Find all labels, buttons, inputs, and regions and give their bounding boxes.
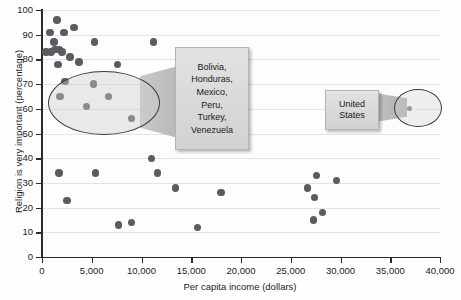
gridline [42,10,440,11]
us-label-line-2: States [339,110,365,122]
data-point [60,29,67,36]
gridline [42,232,440,233]
y-axis-tick-mark [36,59,42,60]
data-point [58,48,65,55]
x-axis-tick-label: 40,000 [410,265,461,276]
y-axis-tick-mark [36,109,42,110]
scatter-chart-figure: 0102030405060708090100 05,00010,00015,00… [0,0,461,300]
data-point [54,61,61,68]
data-point [53,16,60,23]
data-point [70,24,77,31]
united-states-callout-text: United States [339,99,365,122]
cluster-highlight-ellipse [48,71,160,135]
data-point [55,169,62,176]
united-states-callout-box: United States [325,90,379,130]
callout-country-3: Mexico, [191,86,233,99]
x-axis-tick-mark [42,257,43,263]
x-axis-tick-mark [92,257,93,263]
data-point [172,184,179,191]
x-axis-tick-mark [440,257,441,263]
x-axis-tick-mark [341,257,342,263]
data-point [148,155,155,162]
data-point [304,184,311,191]
data-point [154,169,161,176]
y-axis-tick-mark [36,84,42,85]
gridline [42,35,440,36]
y-axis-title: Religion is very important (percentage) [13,7,24,257]
data-point [310,216,317,223]
callout-country-6: Venezuela [191,124,233,137]
gridline [42,208,440,209]
cluster-callout-text: Bolivia, Honduras, Mexico, Peru, Turkey,… [191,61,233,137]
data-point [115,221,122,228]
y-axis-tick-mark [36,158,42,159]
x-axis-tick-mark [191,257,192,263]
x-axis-tick-mark [390,257,391,263]
y-axis-tick-mark [36,183,42,184]
x-axis-tick-mark [241,257,242,263]
callout-country-4: Peru, [191,99,233,112]
gridline [42,183,440,184]
data-point [150,38,157,45]
data-point [75,58,82,65]
data-point [66,53,73,60]
y-axis-tick-mark [36,208,42,209]
data-point [63,197,70,204]
y-axis-tick-mark [36,35,42,36]
y-axis-tick-mark [36,134,42,135]
x-axis-title: Per capita income (dollars) [140,281,340,292]
x-axis-tick-mark [291,257,292,263]
callout-country-1: Bolivia, [191,61,233,74]
callout-country-2: Honduras, [191,73,233,86]
data-point [50,38,57,45]
data-point [46,29,53,36]
united-states-highlight-ellipse [394,89,442,127]
x-axis-tick-mark [142,257,143,263]
y-axis-tick-mark [36,232,42,233]
callout-country-5: Turkey, [191,111,233,124]
gridline [42,158,440,159]
data-point [194,224,201,231]
y-axis-tick-mark [36,10,42,11]
us-label-line-1: United [339,99,365,111]
cluster-callout-box: Bolivia, Honduras, Mexico, Peru, Turkey,… [175,47,249,150]
